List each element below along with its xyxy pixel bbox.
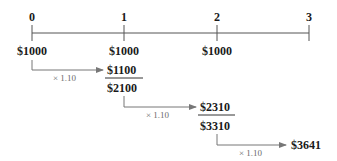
- period-label-2: 2: [214, 11, 220, 23]
- multiplier-label-2: × 1.10: [146, 111, 169, 120]
- grown-value-2: $2310: [200, 101, 230, 113]
- multiplier-label-1: × 1.10: [53, 74, 76, 83]
- period-label-0: 0: [29, 11, 35, 23]
- deposit-1: $1000: [109, 45, 139, 57]
- diagram-lines: [0, 0, 337, 161]
- period-label-3: 3: [306, 11, 312, 23]
- future-value-timeline-diagram: 0 1 2 3 $1000 $1000 $1000 × 1.10 $1100 $…: [0, 0, 337, 161]
- deposit-2: $1000: [202, 45, 232, 57]
- grown-value-1: $1100: [107, 64, 136, 76]
- period-label-1: 1: [121, 11, 127, 23]
- compound-arrow-1: [32, 60, 103, 70]
- multiplier-label-3: × 1.10: [239, 149, 262, 158]
- future-value-final: $3641: [291, 139, 321, 151]
- deposit-0: $1000: [17, 45, 47, 57]
- running-total-1: $2100: [107, 82, 137, 94]
- compound-arrow-3: [217, 134, 286, 145]
- running-total-2: $3310: [200, 120, 230, 132]
- compound-arrow-2: [124, 96, 196, 107]
